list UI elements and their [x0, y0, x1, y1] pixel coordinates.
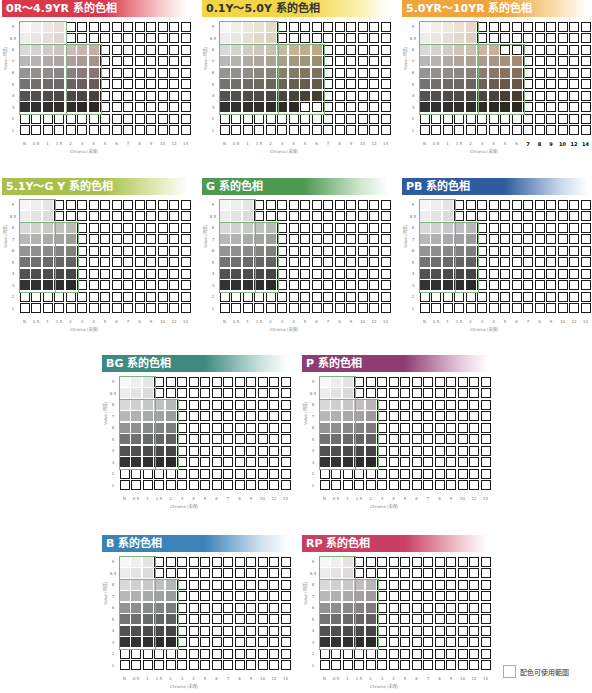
color-cell	[381, 79, 391, 89]
color-cell	[335, 269, 345, 279]
y-tick-label: 6	[108, 605, 118, 610]
color-cell	[181, 200, 191, 210]
color-cell	[369, 200, 379, 210]
x-tick-label: N	[219, 141, 230, 146]
color-cell	[54, 223, 64, 233]
color-cell	[343, 423, 353, 433]
color-cell	[146, 280, 156, 290]
color-cell	[66, 45, 76, 55]
color-cell	[154, 568, 164, 578]
x-tick-label: 3	[177, 676, 188, 681]
color-cell	[431, 22, 441, 32]
color-cell	[469, 457, 479, 467]
color-cell	[89, 246, 99, 256]
color-cell	[277, 114, 287, 124]
color-cell	[354, 388, 364, 398]
y-tick-label: 8.5	[408, 214, 418, 219]
color-cell	[312, 125, 322, 135]
color-cell	[581, 91, 591, 101]
color-cell	[466, 91, 476, 101]
x-tick-label: 1.5	[254, 141, 265, 146]
color-cell	[343, 400, 353, 410]
color-cell	[523, 303, 533, 313]
x-tick-label: 6	[311, 141, 322, 146]
color-cell	[335, 125, 345, 135]
color-cell	[431, 257, 441, 267]
color-cell	[335, 223, 345, 233]
color-cell	[246, 377, 256, 387]
color-cell	[212, 649, 222, 659]
x-tick-label: 6	[411, 676, 422, 681]
color-cell	[443, 68, 453, 78]
color-cell	[535, 56, 545, 66]
panel-title: PB 系的色相	[402, 178, 588, 195]
color-cell	[300, 22, 310, 32]
color-cell	[189, 637, 199, 647]
color-cell	[458, 411, 468, 421]
color-cell	[89, 125, 99, 135]
color-cell	[331, 400, 341, 410]
color-cell	[243, 246, 253, 256]
color-cell	[158, 125, 168, 135]
color-cell	[243, 269, 253, 279]
color-cell	[281, 603, 291, 613]
color-cell	[512, 91, 522, 101]
color-cell	[266, 125, 276, 135]
color-cell	[400, 469, 410, 479]
color-cell	[31, 45, 41, 55]
x-tick-label: 4	[388, 496, 399, 501]
x-tick-label: 10	[457, 496, 468, 501]
color-cell	[77, 68, 87, 78]
color-cell	[123, 102, 133, 112]
color-cell	[320, 580, 330, 590]
color-cell	[181, 79, 191, 89]
color-cell	[446, 469, 456, 479]
color-cell	[466, 269, 476, 279]
color-cell	[112, 45, 122, 55]
color-cell	[112, 22, 122, 32]
color-cell	[331, 557, 341, 567]
hue-panel: 0.1Y～5.0Y 系的色相98.587654321N0.511.5234567…	[200, 0, 390, 160]
color-cell	[177, 568, 187, 578]
color-cell	[189, 649, 199, 659]
color-cell	[320, 480, 330, 490]
color-cell	[158, 257, 168, 267]
x-tick-label: 6	[211, 676, 222, 681]
color-cell	[89, 22, 99, 32]
color-cell	[212, 423, 222, 433]
color-cell	[277, 223, 287, 233]
color-cell	[446, 649, 456, 659]
y-tick-label: 8.5	[108, 391, 118, 396]
color-cell	[258, 568, 268, 578]
x-tick-label: 9	[446, 496, 457, 501]
color-cell	[412, 388, 422, 398]
color-cell	[435, 603, 445, 613]
color-cell	[223, 469, 233, 479]
color-cell	[523, 280, 533, 290]
x-tick-label: 8	[234, 496, 245, 501]
color-cell	[212, 446, 222, 456]
color-cell	[220, 56, 230, 66]
color-cell	[54, 292, 64, 302]
color-cell	[281, 411, 291, 421]
color-cell	[277, 91, 287, 101]
color-cell	[181, 114, 191, 124]
color-cell	[266, 303, 276, 313]
color-cell	[377, 626, 387, 636]
y-tick-label: 4	[208, 93, 218, 98]
x-tick-label: 1.5	[154, 676, 165, 681]
color-cell	[381, 45, 391, 55]
color-cell	[312, 56, 322, 66]
color-cell	[258, 637, 268, 647]
color-cell	[558, 234, 568, 244]
x-tick-label: 4	[288, 319, 299, 324]
y-tick-label: 5	[408, 260, 418, 265]
color-cell	[489, 114, 499, 124]
y-tick-label: 9	[108, 379, 118, 384]
color-cell	[346, 292, 356, 302]
color-cell	[443, 280, 453, 290]
color-cell	[431, 211, 441, 221]
color-cell	[177, 457, 187, 467]
x-tick-label: 4	[388, 676, 399, 681]
color-cell	[523, 68, 533, 78]
